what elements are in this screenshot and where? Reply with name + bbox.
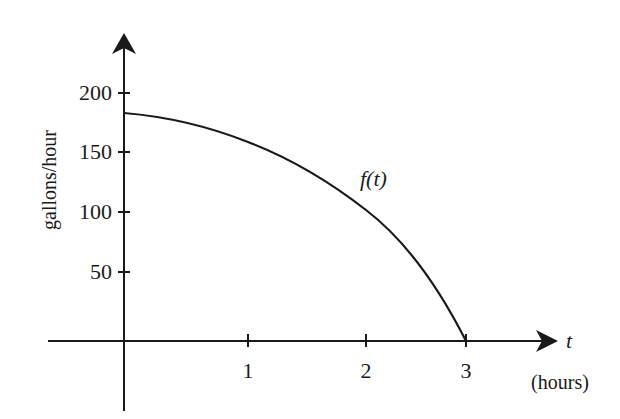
x-axis-variable: t (566, 328, 573, 353)
x-tick-label-2: 2 (361, 358, 372, 383)
x-tick-label-3: 3 (461, 358, 472, 383)
y-axis: 200 150 100 50 gallons/hour (38, 33, 136, 411)
curve-label: f(t) (360, 166, 387, 191)
x-tick-label-1: 1 (243, 358, 254, 383)
y-tick-label-200: 200 (79, 80, 112, 105)
curve-f-of-t (124, 113, 466, 341)
y-axis-title: gallons/hour (38, 130, 61, 230)
y-tick-label-50: 50 (90, 259, 112, 284)
x-axis: 1 2 3 t (hours) (48, 328, 589, 394)
y-tick-label-150: 150 (79, 139, 112, 164)
x-axis-units: (hours) (531, 371, 589, 394)
y-tick-label-100: 100 (79, 199, 112, 224)
chart-canvas: 200 150 100 50 gallons/hour 1 2 3 t (hou… (0, 0, 620, 419)
